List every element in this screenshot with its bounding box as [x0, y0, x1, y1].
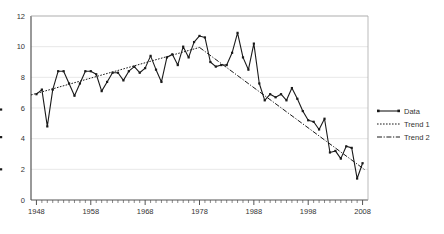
- data-point-marker: [236, 32, 238, 34]
- y-tick-label: 8: [21, 73, 25, 82]
- data-point-marker: [361, 162, 363, 164]
- x-tick-label-group: 1948195819681978198819982008: [28, 207, 371, 216]
- data-point-marker: [323, 118, 325, 120]
- data-point-marker: [253, 43, 255, 45]
- x-tick-label: 2008: [354, 207, 371, 216]
- data-point-marker: [155, 69, 157, 71]
- line-chart: 024681012 1948195819681978198819982008 D…: [0, 0, 444, 234]
- data-point-marker: [188, 56, 190, 58]
- data-point-marker: [302, 110, 304, 112]
- legend-item-data[interactable]: Data: [377, 107, 421, 116]
- x-tick-label: 1988: [246, 207, 263, 216]
- data-point-marker: [111, 72, 113, 74]
- legend-marker-start-icon: [377, 110, 380, 113]
- data-point-marker: [35, 93, 37, 95]
- data-point-marker: [68, 82, 70, 84]
- data-point-marker: [318, 128, 320, 130]
- data-point-marker: [356, 177, 358, 179]
- x-tick-label: 1978: [191, 207, 208, 216]
- legend-label-trend-2: Trend 2: [404, 133, 430, 142]
- data-point-marker: [264, 99, 266, 101]
- legend-label-data: Data: [404, 107, 421, 116]
- data-point-marker: [220, 64, 222, 66]
- data-point-marker: [242, 56, 244, 58]
- data-point-marker: [334, 150, 336, 152]
- data-point-marker: [307, 119, 309, 121]
- data-point-marker: [247, 69, 249, 71]
- data-point-marker: [90, 70, 92, 72]
- x-tick-label: 1948: [28, 207, 45, 216]
- data-point-marker: [95, 73, 97, 75]
- data-point-marker: [128, 70, 130, 72]
- data-point-marker: [274, 96, 276, 98]
- data-point-marker: [209, 61, 211, 63]
- data-point-marker: [280, 93, 282, 95]
- x-tick-label: 1998: [300, 207, 317, 216]
- data-point-marker: [63, 70, 65, 72]
- x-tick-label: 1958: [82, 207, 99, 216]
- y-tick-label: 0: [21, 196, 25, 205]
- data-point-marker: [122, 79, 124, 81]
- data-point-marker: [204, 36, 206, 38]
- legend-item-trend-2[interactable]: Trend 2: [377, 133, 430, 142]
- data-point-marker: [101, 90, 103, 92]
- x-tick-label: 1968: [137, 207, 154, 216]
- data-point-marker: [291, 87, 293, 89]
- data-point-marker: [79, 82, 81, 84]
- data-point-marker: [177, 64, 179, 66]
- data-point-marker: [73, 95, 75, 97]
- data-point-marker: [52, 89, 54, 91]
- y-tick-label: 10: [17, 42, 25, 51]
- data-point-marker: [84, 70, 86, 72]
- data-point-marker: [133, 66, 135, 68]
- data-point-marker: [166, 56, 168, 58]
- data-point-marker: [117, 72, 119, 74]
- y-tick-label: 6: [21, 104, 25, 113]
- data-point-marker: [285, 99, 287, 101]
- data-point-marker: [149, 55, 151, 57]
- y-tick-label: 4: [21, 134, 25, 143]
- data-point-marker: [46, 125, 48, 127]
- data-point-marker: [345, 145, 347, 147]
- data-point-marker: [226, 64, 228, 66]
- legend-item-trend-1[interactable]: Trend 1: [377, 120, 430, 129]
- data-point-marker: [41, 89, 43, 91]
- data-point-marker: [198, 35, 200, 37]
- data-point-marker: [231, 52, 233, 54]
- data-point-marker: [106, 81, 108, 83]
- data-point-marker: [351, 147, 353, 149]
- data-point-marker: [296, 98, 298, 100]
- data-point-marker: [144, 67, 146, 69]
- legend-marker-end-icon: [397, 110, 400, 113]
- y-tick-label-group: 024681012: [17, 12, 25, 205]
- legend-label-trend-1: Trend 1: [404, 120, 430, 129]
- chart-legend: Data Trend 1 Trend 2: [377, 107, 430, 142]
- data-point-marker: [160, 81, 162, 83]
- data-point-marker: [313, 121, 315, 123]
- data-point-marker: [215, 66, 217, 68]
- chart-container: 024681012 1948195819681978198819982008 D…: [0, 0, 444, 234]
- data-point-marker: [0, 108, 2, 110]
- data-point-marker: [139, 72, 141, 74]
- data-point-marker: [269, 93, 271, 95]
- y-tick-label: 2: [21, 165, 25, 174]
- y-tick-label: 12: [17, 12, 25, 21]
- data-point-marker: [193, 41, 195, 43]
- data-point-marker: [0, 136, 2, 138]
- data-point-marker: [171, 53, 173, 55]
- x-tick-mark-group: [36, 200, 362, 205]
- data-point-marker: [329, 151, 331, 153]
- data-point-marker: [0, 168, 2, 170]
- data-point-marker: [182, 46, 184, 48]
- data-point-marker: [340, 158, 342, 160]
- data-point-marker: [258, 82, 260, 84]
- data-point-marker: [57, 70, 59, 72]
